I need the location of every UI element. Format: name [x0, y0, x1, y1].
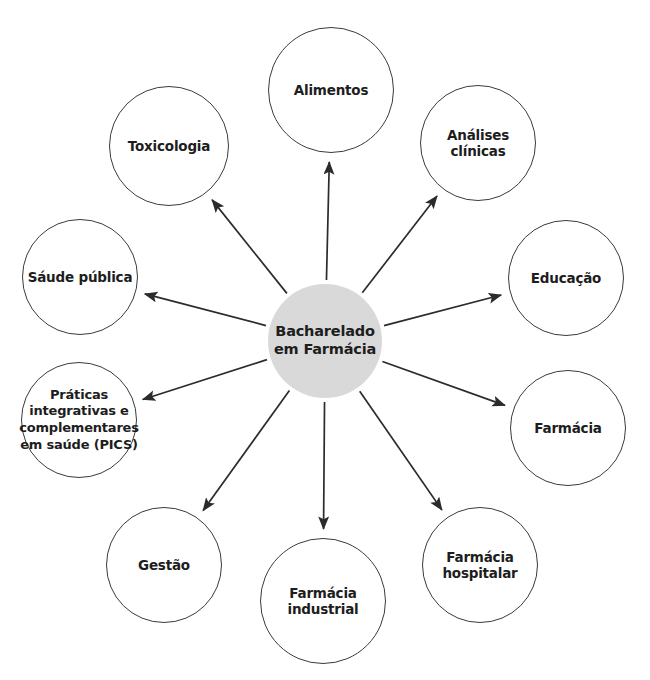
edge-center-to-saude-publica: [145, 294, 266, 326]
node-gestao[interactable]: Gestão: [106, 507, 222, 623]
node-label-pics: Práticas integrativas e complementares e…: [19, 387, 139, 454]
node-educacao[interactable]: Educação: [508, 220, 624, 336]
node-saude-publica[interactable]: Sáude pública: [22, 219, 138, 335]
node-label-farmacia: Farmácia: [534, 420, 602, 436]
edge-center-to-pics: [143, 360, 267, 400]
node-label-toxicologia: Toxicologia: [128, 138, 210, 154]
edge-center-to-farmacia: [382, 362, 504, 406]
edge-center-to-farmacia-industrial: [324, 402, 325, 529]
edge-center-to-toxicologia: [212, 200, 287, 293]
node-alimentos[interactable]: Alimentos: [268, 27, 394, 153]
node-analises-clinicas[interactable]: Análises clínicas: [420, 85, 536, 201]
node-label-gestao: Gestão: [138, 557, 190, 573]
node-label-analises-clinicas: Análises clínicas: [447, 127, 509, 160]
node-pics[interactable]: Práticas integrativas e complementares e…: [21, 362, 137, 478]
center-node-center[interactable]: Bacharelado em Farmácia: [268, 284, 382, 398]
node-label-farmacia-industrial: Farmácia industrial: [287, 585, 358, 618]
node-toxicologia[interactable]: Toxicologia: [109, 86, 229, 206]
node-label-educacao: Educação: [531, 270, 601, 286]
node-label-alimentos: Alimentos: [294, 82, 369, 98]
diagram-canvas: Bacharelado em FarmáciaAlimentosAnálises…: [0, 0, 650, 680]
node-label-farmacia-hospitalar: Farmácia hospitalar: [442, 549, 517, 582]
node-farmacia-hospitalar[interactable]: Farmácia hospitalar: [422, 507, 538, 623]
edge-center-to-gestao: [203, 391, 289, 511]
edge-center-to-alimentos: [326, 162, 329, 280]
edge-center-to-educacao: [384, 295, 501, 326]
node-label-saude-publica: Sáude pública: [28, 269, 133, 285]
edge-center-to-farmacia-hospitalar: [360, 391, 442, 510]
node-farmacia-industrial[interactable]: Farmácia industrial: [260, 538, 386, 664]
edge-center-to-analises-clinicas: [362, 196, 437, 293]
center-node-label-center: Bacharelado em Farmácia: [274, 323, 376, 358]
node-farmacia[interactable]: Farmácia: [510, 370, 626, 486]
